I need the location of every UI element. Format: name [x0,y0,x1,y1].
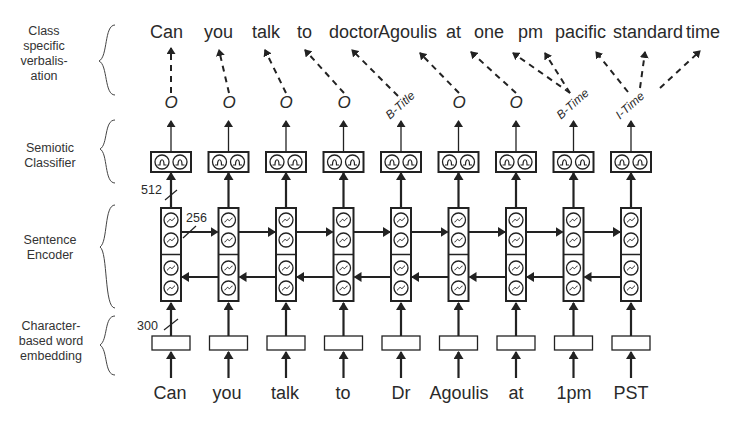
network-diagram [0,0,745,427]
embedding-box [325,336,363,350]
embedding-box [612,336,650,350]
embedding-box [555,336,593,350]
embedding-box [440,336,478,350]
embedding-box [497,336,535,350]
network-column [611,121,651,378]
brace-icons [99,25,115,375]
embedding-box [152,336,190,350]
embedding-box [382,336,420,350]
verbalisation-arrows [171,48,700,96]
embedding-box [210,336,248,350]
embedding-box [267,336,305,350]
